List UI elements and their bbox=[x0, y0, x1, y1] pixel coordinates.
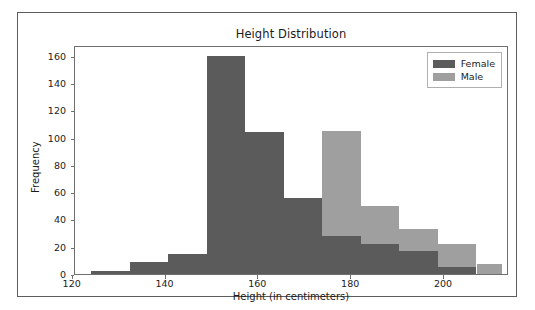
y-axis-tick-label: 140 bbox=[18, 78, 66, 89]
x-axis-tick-label: 200 bbox=[423, 278, 463, 289]
x-axis-tick-mark bbox=[165, 275, 166, 279]
page-title: Height Distribution bbox=[74, 27, 508, 41]
histogram-bar bbox=[361, 244, 400, 274]
x-axis-tick-mark bbox=[350, 275, 351, 279]
y-axis-tick-label: 80 bbox=[18, 160, 66, 171]
histogram-bar bbox=[438, 267, 477, 274]
histogram-bar bbox=[130, 262, 169, 274]
histogram-bar bbox=[322, 236, 361, 274]
legend-item: Female bbox=[433, 57, 495, 70]
legend-swatch-icon bbox=[433, 60, 455, 68]
x-axis-tick-label: 180 bbox=[330, 278, 370, 289]
chart-legend: FemaleMale bbox=[427, 52, 502, 88]
histogram-bar bbox=[168, 254, 207, 274]
y-axis-tick-label: 100 bbox=[18, 133, 66, 144]
histogram-bar bbox=[207, 56, 246, 274]
y-axis-tick-label: 160 bbox=[18, 51, 66, 62]
y-axis-tick-label: 60 bbox=[18, 187, 66, 198]
y-axis-tick-label: 120 bbox=[18, 105, 66, 116]
x-axis-tick-mark bbox=[257, 275, 258, 279]
figure-border: Height Distribution Frequency 0204060801… bbox=[17, 12, 517, 297]
plot-area: FemaleMale bbox=[74, 46, 508, 275]
histogram-bar bbox=[245, 132, 284, 274]
legend-swatch-icon bbox=[433, 73, 455, 81]
histogram-bar bbox=[399, 251, 438, 274]
legend-item: Male bbox=[433, 70, 495, 83]
histogram-bar bbox=[477, 264, 503, 274]
x-axis-tick-mark bbox=[443, 275, 444, 279]
x-axis-label: Height (in centimeters) bbox=[74, 291, 508, 302]
histogram-bar bbox=[284, 198, 323, 274]
histogram-bar bbox=[91, 271, 130, 274]
legend-label: Male bbox=[461, 71, 484, 82]
y-axis-tick-label: 40 bbox=[18, 214, 66, 225]
x-axis-tick-label: 120 bbox=[52, 278, 92, 289]
legend-label: Female bbox=[461, 58, 495, 69]
y-axis-tick-label: 20 bbox=[18, 242, 66, 253]
x-axis-tick-mark bbox=[72, 275, 73, 279]
x-axis-tick-label: 140 bbox=[145, 278, 185, 289]
x-axis-tick-label: 160 bbox=[237, 278, 277, 289]
figure-canvas: Height Distribution Frequency 0204060801… bbox=[0, 0, 535, 310]
